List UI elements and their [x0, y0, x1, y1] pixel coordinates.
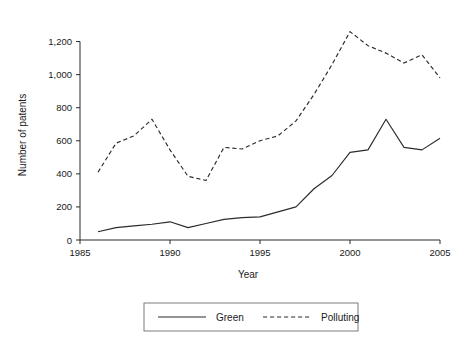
x-tick-label: 2005: [429, 247, 450, 258]
chart-legend: Green Polluting: [144, 303, 359, 331]
series-layer: [98, 32, 440, 232]
y-tick-label: 600: [56, 135, 72, 146]
x-tick-label: 1995: [249, 247, 270, 258]
y-tick-label: 0: [67, 235, 72, 246]
x-tick-label: 1985: [69, 247, 90, 258]
y-tick-label: 1,000: [48, 69, 72, 80]
y-tick-label: 200: [56, 201, 72, 212]
legend-label-polluting: Polluting: [321, 312, 359, 323]
line-chart: Number of patents Year 02004006008001,00…: [0, 0, 466, 350]
series-line-green: [98, 119, 440, 231]
series-line-polluting: [98, 32, 440, 181]
y-axis-ticks: 02004006008001,0001,200: [48, 36, 80, 245]
legend-label-green: Green: [216, 312, 244, 323]
x-tick-label: 2000: [339, 247, 360, 258]
x-axis-title: Year: [238, 269, 259, 280]
chart-figure: Number of patents Year 02004006008001,00…: [0, 0, 466, 350]
y-tick-label: 1,200: [48, 36, 72, 47]
y-axis-title: Number of patents: [17, 94, 28, 176]
y-tick-label: 800: [56, 102, 72, 113]
x-tick-label: 1990: [159, 247, 180, 258]
x-axis-ticks: 19851990199520002005: [69, 240, 450, 258]
y-tick-label: 400: [56, 168, 72, 179]
